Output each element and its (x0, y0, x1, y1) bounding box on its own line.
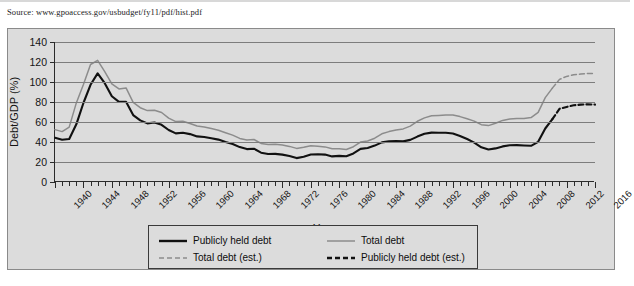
y-axis-tick-label: 120 (29, 56, 47, 68)
x-axis-minor-tick (69, 182, 70, 186)
legend-swatch-dashed-gray-icon (159, 253, 187, 263)
figure-panel: Debt/GDP (%) 020406080100120140194019441… (7, 28, 615, 270)
x-axis-minor-tick (446, 182, 447, 186)
x-axis-tick-label: 2008 (554, 188, 577, 211)
x-axis-minor-tick (289, 182, 290, 186)
x-axis-minor-tick (389, 182, 390, 186)
gridline (55, 162, 595, 163)
x-axis-minor-tick (218, 182, 219, 186)
x-axis-minor-tick (496, 182, 497, 186)
legend-label-publicly-held-debt: Publicly held debt (193, 235, 271, 246)
legend-swatch-dashed-black-icon (327, 253, 355, 263)
x-axis-tick-label: 1984 (384, 188, 407, 211)
x-axis-minor-tick (261, 182, 262, 186)
x-axis-major-tick (368, 182, 369, 188)
legend-item-total-debt: Total debt (327, 235, 404, 246)
series-line-total-debt-est (552, 73, 595, 88)
x-axis-minor-tick (268, 182, 269, 186)
x-axis-minor-tick (119, 182, 120, 186)
legend-label-publicly-held-debt-est: Publicly held debt (est.) (361, 252, 465, 263)
x-axis-tick-label: 1940 (71, 188, 94, 211)
x-axis-major-tick (538, 182, 539, 188)
x-axis-tick-label: 2012 (583, 188, 606, 211)
y-axis-tick-label: 0 (41, 176, 47, 188)
legend-swatch-solid-black-icon (159, 236, 187, 246)
plot-area: 0204060801001201401940194419481952195619… (54, 42, 594, 182)
x-axis-minor-tick (91, 182, 92, 186)
x-axis-tick-label: 1980 (355, 188, 378, 211)
x-axis-tick-label: 1968 (270, 188, 293, 211)
legend-swatch-solid-gray-icon (327, 236, 355, 246)
x-axis-minor-tick (403, 182, 404, 186)
x-axis-minor-tick (247, 182, 248, 186)
x-axis-tick-label: 1996 (469, 188, 492, 211)
x-axis-tick-label: 2004 (526, 188, 549, 211)
x-axis-minor-tick (190, 182, 191, 186)
series-line-publicly-held-debt (55, 73, 552, 158)
legend-item-publicly-held-debt: Publicly held debt (159, 235, 327, 246)
y-axis-tick-label: 140 (29, 36, 47, 48)
y-axis-tick-label: 80 (35, 96, 47, 108)
x-axis-minor-tick (98, 182, 99, 186)
x-axis-tick-label: 2000 (498, 188, 521, 211)
x-axis-minor-tick (467, 182, 468, 186)
x-axis-major-tick (453, 182, 454, 188)
x-axis-minor-tick (133, 182, 134, 186)
x-axis-minor-tick (531, 182, 532, 186)
x-axis-minor-tick (361, 182, 362, 186)
y-axis-tick (50, 142, 55, 143)
x-axis-tick-label: 1992 (441, 188, 464, 211)
y-axis-tick-label: 20 (35, 156, 47, 168)
x-axis-major-tick (140, 182, 141, 188)
y-axis-tick (50, 162, 55, 163)
x-axis-minor-tick (524, 182, 525, 186)
x-axis-minor-tick (346, 182, 347, 186)
x-axis-major-tick (55, 182, 56, 188)
series-line-total-debt (55, 60, 552, 149)
x-axis-tick-label: 1944 (100, 188, 123, 211)
x-axis-major-tick (481, 182, 482, 188)
x-axis-minor-tick (211, 182, 212, 186)
y-axis-tick (50, 102, 55, 103)
y-axis-tick-label: 60 (35, 116, 47, 128)
x-axis-tick-label: 1972 (299, 188, 322, 211)
legend-item-total-debt-est: Total debt (est.) (159, 252, 327, 263)
x-axis-minor-tick (545, 182, 546, 186)
chart-legend: Publicly held debt Total debt Total debt… (148, 225, 478, 269)
legend-label-total-debt: Total debt (361, 235, 404, 246)
x-axis-minor-tick (240, 182, 241, 186)
gridline (55, 42, 595, 43)
legend-item-publicly-held-debt-est: Publicly held debt (est.) (327, 252, 465, 263)
x-axis-tick-label: 1956 (185, 188, 208, 211)
x-axis-major-tick (424, 182, 425, 188)
x-axis-minor-tick (574, 182, 575, 186)
x-axis-tick-label: 1952 (156, 188, 179, 211)
x-axis-minor-tick (517, 182, 518, 186)
x-axis-minor-tick (297, 182, 298, 186)
x-axis-minor-tick (503, 182, 504, 186)
legend-label-total-debt-est: Total debt (est.) (193, 252, 262, 263)
gridline (55, 62, 595, 63)
x-axis-major-tick (510, 182, 511, 188)
legend-row-2: Total debt (est.) Publicly held debt (es… (159, 249, 467, 266)
x-axis-minor-tick (162, 182, 163, 186)
x-axis-minor-tick (552, 182, 553, 186)
x-axis-major-tick (339, 182, 340, 188)
plot-wrapper: Debt/GDP (%) 020406080100120140194019441… (54, 42, 594, 195)
y-axis-tick (50, 42, 55, 43)
x-axis-minor-tick (439, 182, 440, 186)
series-lines (55, 42, 595, 182)
page-top-rule (0, 0, 630, 2)
gridline (55, 142, 595, 143)
x-axis-minor-tick (417, 182, 418, 186)
x-axis-minor-tick (332, 182, 333, 186)
x-axis-minor-tick (105, 182, 106, 186)
gridline (55, 122, 595, 123)
x-axis-tick-label: 2016 (611, 188, 634, 211)
legend-row-1: Publicly held debt Total debt (159, 232, 467, 249)
x-axis-minor-tick (410, 182, 411, 186)
x-axis-minor-tick (147, 182, 148, 186)
x-axis-major-tick (83, 182, 84, 188)
x-axis-major-tick (254, 182, 255, 188)
x-axis-major-tick (226, 182, 227, 188)
